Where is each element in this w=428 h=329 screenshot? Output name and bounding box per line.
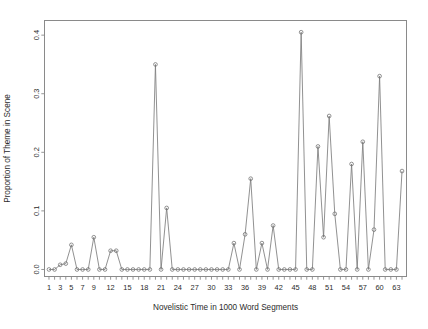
x-tick-label: 3 — [58, 283, 62, 292]
x-tick-label: 12 — [107, 283, 115, 292]
x-tick-label: 33 — [224, 283, 232, 292]
y-tick-label: 0.4 — [32, 30, 41, 40]
x-tick-label: 57 — [359, 283, 367, 292]
y-tick-label: 0.1 — [32, 206, 41, 216]
x-tick-label: 30 — [207, 283, 215, 292]
x-tick-label: 7 — [81, 283, 85, 292]
x-axis-title: Novelistic Time in 1000 Word Segments — [153, 303, 298, 312]
y-tick-label: 0.3 — [32, 89, 41, 99]
x-tick-label: 45 — [291, 283, 299, 292]
x-tick-label: 18 — [140, 283, 148, 292]
data-series-line — [49, 32, 402, 269]
x-tick-label: 15 — [123, 283, 131, 292]
x-tick-label: 60 — [375, 283, 383, 292]
x-tick-label: 21 — [157, 283, 165, 292]
y-tick-label: 0.0 — [32, 264, 41, 274]
x-tick-label: 27 — [191, 283, 199, 292]
x-tick-label: 5 — [69, 283, 73, 292]
x-tick-label: 48 — [308, 283, 316, 292]
y-axis-title: Proportion of Theme in Scene — [3, 94, 12, 203]
x-tick-label: 51 — [325, 283, 333, 292]
y-tick-label: 0.2 — [32, 147, 41, 157]
x-tick-label: 36 — [241, 283, 249, 292]
x-tick-label: 1 — [47, 283, 51, 292]
x-tick-label: 39 — [258, 283, 266, 292]
x-tick-label: 42 — [275, 283, 283, 292]
chart-figure: 1357912151821242730333639424548515457606… — [0, 0, 428, 329]
plot-frame — [45, 21, 407, 277]
x-tick-label: 54 — [342, 283, 350, 292]
x-tick-label: 9 — [92, 283, 96, 292]
x-tick-label: 24 — [174, 283, 182, 292]
line-chart: 1357912151821242730333639424548515457606… — [0, 0, 428, 329]
x-tick-label: 63 — [392, 283, 400, 292]
